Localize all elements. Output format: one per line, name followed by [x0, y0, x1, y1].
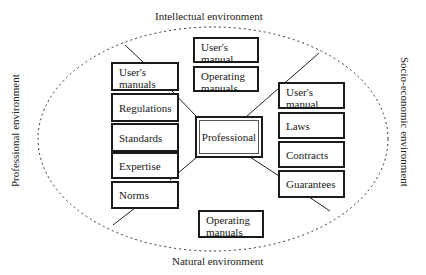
label-intellectual-environment: Intellectual environment	[155, 10, 263, 22]
label-socio-economic-environment: Socio-economic environment	[399, 57, 411, 197]
connector-professional-right-lower	[250, 157, 279, 176]
box-laws: Laws	[278, 112, 345, 139]
box-label: Professional	[202, 131, 256, 143]
label-natural-environment: Natural environment	[172, 255, 263, 267]
box-label: User's manuals	[119, 66, 159, 90]
box-label: Operating manuals	[206, 214, 256, 238]
box-contracts: Contracts	[278, 141, 345, 168]
box-users-manuals-left: User's manuals	[111, 62, 179, 91]
connector-left-bottom	[113, 208, 135, 225]
box-label: Standards	[119, 132, 162, 144]
box-label: Regulations	[119, 102, 172, 114]
box-professional: Professional	[195, 116, 263, 158]
box-users-manual-right: User's manual	[278, 82, 345, 109]
box-users-manual-top: User's manual	[193, 37, 259, 63]
box-norms: Norms	[111, 181, 179, 209]
box-label: Guarantees	[286, 178, 335, 190]
box-label: Contracts	[286, 149, 328, 161]
box-expertise: Expertise	[111, 152, 179, 179]
box-label: User's manual	[286, 86, 326, 110]
label-professional-environment: Professional environment	[9, 67, 21, 187]
connector-left-top	[125, 45, 143, 62]
connector-right-bottom	[309, 197, 330, 211]
box-operating-manuals-top: Operating manuals	[193, 66, 259, 92]
box-regulations: Regulations	[111, 93, 179, 122]
box-label: Norms	[119, 189, 149, 201]
box-operating-manuals-bottom: Operating manuals	[198, 210, 264, 238]
box-label: Expertise	[119, 160, 161, 172]
box-guarantees: Guarantees	[278, 170, 345, 198]
box-standards: Standards	[111, 123, 179, 152]
box-label: User's manual	[201, 41, 241, 65]
professional-inner: Professional	[199, 120, 259, 154]
box-label: Operating manuals	[201, 70, 251, 94]
box-label: Laws	[286, 120, 310, 132]
